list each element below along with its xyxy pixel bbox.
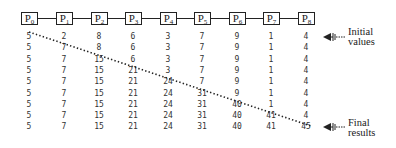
- arrow-left-icon: [323, 123, 345, 131]
- final-label-line2: results: [348, 128, 375, 138]
- final-results-label: Final results: [348, 118, 375, 138]
- initial-values-label: Initial values: [348, 27, 375, 47]
- initial-label-line2: values: [348, 37, 375, 47]
- arrow-left-icon: [323, 33, 345, 41]
- diagonal-dotted-line: [0, 0, 396, 148]
